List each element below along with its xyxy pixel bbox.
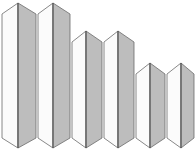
chart-container: Descending stepped bar chart with six 3D… (0, 0, 195, 158)
bar-left-face (104, 31, 118, 148)
bar-1[interactable] (2, 3, 36, 148)
bar-left-face (2, 3, 18, 148)
bar-5[interactable] (136, 63, 165, 148)
bar-6[interactable] (167, 63, 194, 148)
bar-left-face (38, 3, 53, 148)
bar-chart-svg (0, 0, 195, 158)
bar-2[interactable] (38, 3, 70, 148)
bar-left-face (167, 63, 181, 148)
bars-group (2, 3, 194, 148)
bar-left-face (136, 63, 150, 148)
bar-right-face (118, 31, 134, 148)
x-axis-label-layer (0, 150, 195, 158)
bar-left-face (72, 31, 86, 148)
bar-right-face (18, 3, 36, 148)
bar-3[interactable] (72, 31, 102, 148)
bar-4[interactable] (104, 31, 134, 148)
bar-right-face (150, 63, 165, 148)
bar-right-face (53, 3, 70, 148)
bar-right-face (86, 31, 102, 148)
bar-right-face (181, 63, 194, 148)
